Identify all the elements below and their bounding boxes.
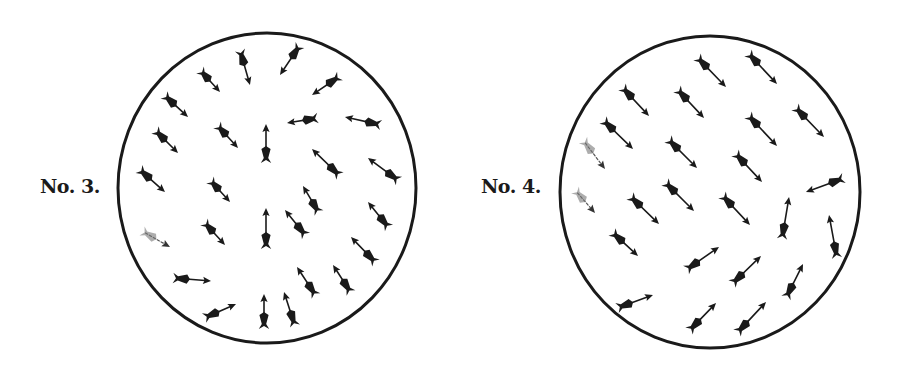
arrow-icon bbox=[664, 135, 700, 171]
arrow-icon bbox=[579, 137, 609, 172]
arrow-icon bbox=[139, 226, 172, 251]
circle-outline bbox=[560, 36, 860, 348]
arrow-icon bbox=[673, 85, 708, 121]
arrow-icon bbox=[308, 145, 343, 180]
arrow-icon bbox=[365, 154, 402, 185]
arrow-icon bbox=[661, 178, 697, 214]
arrow-icon bbox=[608, 228, 641, 260]
arrow-icon bbox=[744, 49, 781, 87]
arrow-icon bbox=[599, 116, 636, 152]
arrow-icon bbox=[733, 298, 770, 336]
arrow-icon bbox=[261, 124, 271, 163]
arrow-icon bbox=[683, 243, 722, 275]
arrow-icon bbox=[364, 199, 393, 232]
arrow-icon bbox=[781, 262, 807, 301]
arrow-icon bbox=[173, 273, 212, 286]
figure-no-3 bbox=[118, 33, 416, 343]
arrow-icon bbox=[615, 290, 655, 313]
arrow-field-diagram bbox=[0, 0, 901, 377]
arrow-icon bbox=[718, 191, 754, 228]
arrow-icon bbox=[261, 208, 271, 249]
arrow-icon bbox=[728, 252, 764, 287]
arrow-icon bbox=[235, 49, 255, 87]
arrow-icon bbox=[777, 196, 794, 240]
arrow-icon bbox=[281, 207, 310, 240]
figure-no-4 bbox=[560, 36, 860, 348]
arrow-icon bbox=[276, 42, 305, 78]
arrow-icon bbox=[347, 233, 380, 266]
arrow-icon bbox=[329, 262, 356, 296]
arrow-icon bbox=[744, 111, 781, 149]
arrow-icon bbox=[804, 173, 846, 197]
arrow-icon bbox=[259, 294, 269, 329]
arrow-icon bbox=[824, 214, 842, 259]
arrow-icon bbox=[299, 183, 324, 215]
arrow-icon bbox=[731, 149, 766, 185]
arrow-icon bbox=[286, 113, 319, 128]
arrow-icon bbox=[196, 67, 224, 96]
arrow-icon bbox=[136, 165, 169, 196]
arrow-icon bbox=[202, 299, 238, 323]
arrow-icon bbox=[626, 192, 662, 227]
arrow-group bbox=[571, 49, 846, 336]
arrow-icon bbox=[151, 126, 181, 156]
arrow-icon bbox=[693, 53, 729, 90]
arrow-group bbox=[136, 42, 403, 329]
arrow-icon bbox=[685, 299, 720, 334]
arrow-icon bbox=[309, 72, 343, 100]
arrow-icon bbox=[213, 121, 242, 151]
arrow-icon bbox=[791, 103, 827, 140]
arrow-icon bbox=[279, 290, 300, 327]
arrow-icon bbox=[618, 83, 653, 119]
arrow-icon bbox=[293, 264, 321, 299]
arrow-icon bbox=[571, 187, 599, 217]
arrow-icon bbox=[206, 177, 234, 206]
arrow-icon bbox=[344, 112, 382, 130]
arrow-icon bbox=[200, 218, 229, 248]
arrow-icon bbox=[160, 91, 191, 121]
